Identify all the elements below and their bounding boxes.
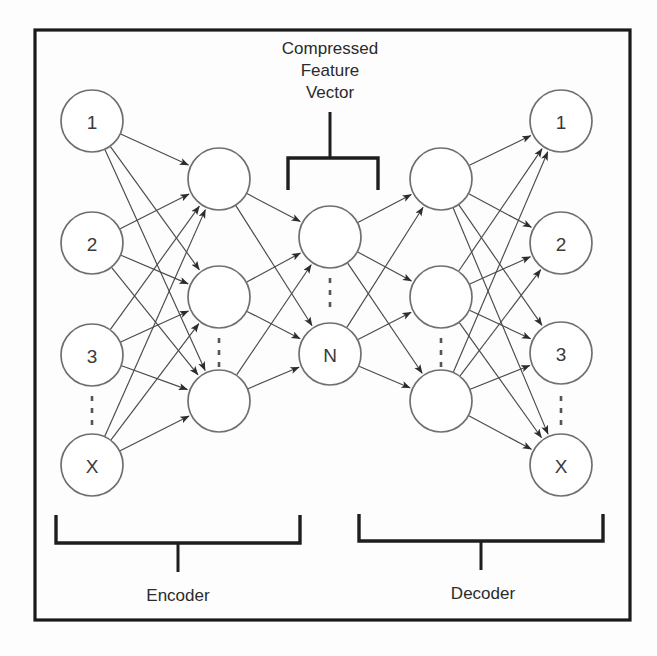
encoder-label: Encoder [146, 586, 210, 605]
neuron-circle [410, 148, 472, 210]
connection-arrow [110, 206, 199, 329]
neuron-label: X [555, 456, 568, 477]
neuron-circle [188, 370, 250, 432]
node-hidden-encoder-2 [188, 266, 250, 328]
neuron-label: 1 [87, 112, 98, 133]
connection-arrow [358, 252, 412, 281]
node-output-2: 2 [530, 212, 592, 274]
decoder-bracket [359, 514, 603, 570]
node-hidden-decoder-3 [410, 370, 472, 432]
node-bottleneck-N: N [299, 323, 361, 385]
connection-arrow [459, 323, 541, 438]
neuron-label: 1 [556, 112, 567, 133]
neuron-label: 3 [556, 344, 567, 365]
node-output-1: 1 [530, 90, 592, 152]
connection-arrow [469, 136, 530, 166]
connection-arrow [111, 324, 199, 440]
neuron-circle [410, 370, 472, 432]
connection-arrow [247, 194, 300, 222]
connection-arrow [121, 311, 189, 342]
connection-arrow [359, 366, 410, 388]
neuron-circle [410, 266, 472, 328]
neuron-label: N [323, 345, 337, 366]
connection-arrow [112, 268, 198, 375]
connection-arrow [470, 310, 531, 339]
connection-arrow [247, 311, 300, 338]
diagram-canvas: 123XN123X Compressed Feature Vector Enco… [0, 0, 657, 656]
neuron-label: 2 [87, 234, 98, 255]
connection-arrow [247, 253, 301, 282]
node-input-2: 2 [61, 212, 123, 274]
connection-arrow [248, 367, 299, 389]
node-hidden-encoder-3 [188, 370, 250, 432]
connection-arrow [358, 195, 411, 223]
node-hidden-decoder-1 [410, 148, 472, 210]
decoder-label: Decoder [451, 584, 516, 603]
connection-arrow [459, 205, 542, 325]
compressed-feature-vector-title: Compressed Feature Vector [282, 39, 378, 102]
encoder-bracket [56, 515, 300, 572]
node-input-3: 3 [61, 324, 123, 386]
connection-arrow [120, 416, 189, 451]
title-line-feature: Feature [301, 61, 360, 80]
compressed-feature-vector-bracket [288, 112, 378, 190]
node-output-X: X [530, 434, 592, 496]
neuron-label: X [86, 456, 99, 477]
neuron-label: 3 [87, 346, 98, 367]
node-hidden-decoder-2 [410, 266, 472, 328]
node-bottleneck-1 [299, 206, 361, 268]
connection-edges [105, 134, 548, 451]
connection-arrow [120, 194, 189, 229]
connection-arrow [110, 147, 199, 270]
neuron-circle [188, 148, 250, 210]
autoencoder-diagram: 123XN123X Compressed Feature Vector Enco… [0, 0, 657, 656]
node-hidden-encoder-1 [188, 148, 250, 210]
connection-arrow [358, 312, 411, 339]
neuron-circle [188, 266, 250, 328]
connection-arrow [470, 365, 530, 389]
node-output-3: 3 [530, 322, 592, 384]
title-line-compressed: Compressed [282, 39, 378, 58]
title-line-vector: Vector [306, 83, 355, 102]
connection-arrow [469, 416, 532, 449]
node-input-1: 1 [61, 90, 123, 152]
connection-arrow [122, 366, 188, 390]
neuron-circle [299, 206, 361, 268]
connection-arrow [121, 134, 189, 165]
neuron-label: 2 [556, 234, 567, 255]
neuron-nodes: 123XN123X [61, 90, 592, 496]
connection-arrow [460, 270, 541, 376]
connection-arrow [459, 149, 542, 271]
node-input-X: X [61, 434, 123, 496]
